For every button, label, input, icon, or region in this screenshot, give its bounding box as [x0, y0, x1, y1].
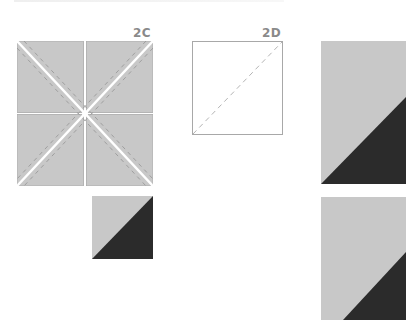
panel-2d-diagram: [192, 41, 283, 135]
small-half-square-triangle: [92, 196, 153, 259]
tall-rectangle-top: [321, 41, 406, 184]
panel-label-2d: 2D: [262, 27, 281, 39]
tall-rectangle-bottom: [321, 197, 406, 320]
cropped-caption-text: [14, 0, 284, 2]
panel-label-2c: 2C: [133, 27, 151, 39]
panel-2c-diagram: [17, 41, 153, 186]
